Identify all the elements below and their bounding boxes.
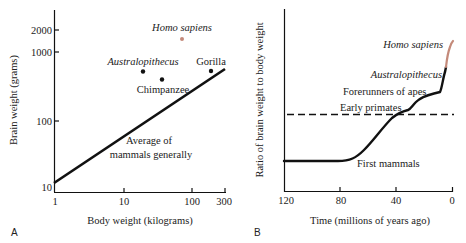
y-tick-label: 100 [36,116,52,127]
label-early-primates: Early primates [340,102,402,113]
x-tick-label: 10 [119,196,130,207]
x-tick-label: 120 [278,195,294,206]
x-tick-label: 40 [391,195,402,206]
y-tick-label: 2000 [31,25,52,36]
label-australopithecus: Australopithecus [106,56,178,67]
label-homo-sapiens: Homo sapiens [151,22,212,33]
point-australopithecus [141,69,145,73]
y-tick-label: 10 [42,182,53,193]
homo-sapiens-curve [446,41,453,67]
label-homo-sapiens-b: Homo sapiens [382,39,443,50]
label-gorilla: Gorilla [196,56,226,67]
average-label-line1: Average of [126,135,173,146]
chart-a-x-axis-label: Body weight (kilograms) [87,215,193,227]
label-forerunners-of-apes: Forerunners of apes [343,86,426,97]
x-tick-label: 300 [216,196,232,207]
point-homo-sapiens [180,37,184,41]
chart-b-y-axis-label: Ratio of brain weight to body weight [254,22,265,177]
chart-b-x-axis-label: Time (millions of years ago) [310,215,430,227]
chart-a-y-axis-label: Brain weight (grams) [8,55,20,145]
x-tick-label: 1 [52,196,57,207]
x-tick-label: 80 [336,195,347,206]
figure: 2000 1000 100 10 1 10 100 300 Body weigh… [0,0,466,243]
label-first-mammals: First mammals [357,158,420,169]
average-label-line2: mammals generally [110,149,193,160]
x-tick-label: 0 [449,195,454,206]
label-chimpanzee: Chimpanzee [137,84,190,95]
chart-a: 2000 1000 100 10 1 10 100 300 Body weigh… [8,10,232,238]
point-gorilla [209,69,213,73]
chart-a-panel-letter: A [11,227,18,238]
label-australopithecus-b: Australopithecus [370,69,442,80]
chart-b: 120 80 40 0 Time (millions of years ago)… [254,9,455,238]
chart-b-panel-letter: B [254,227,261,238]
y-tick-label: 1000 [31,47,52,58]
x-tick-label: 100 [184,196,200,207]
point-chimpanzee [160,77,164,81]
